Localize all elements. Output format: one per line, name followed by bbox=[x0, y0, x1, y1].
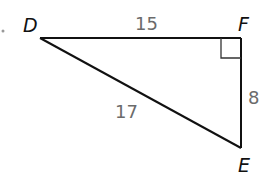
side-label-df: 15 bbox=[135, 13, 158, 34]
vertex-label-d: D bbox=[23, 14, 38, 36]
right-angle-marker bbox=[221, 38, 241, 58]
side-de bbox=[40, 38, 241, 148]
side-label-fe: 8 bbox=[248, 87, 259, 108]
vertex-label-e: E bbox=[238, 154, 250, 176]
vertex-label-f: F bbox=[238, 13, 250, 35]
stray-dot bbox=[2, 30, 5, 33]
side-label-de: 17 bbox=[115, 101, 138, 122]
triangle-def bbox=[40, 38, 241, 148]
triangle-diagram: D F E 15 8 17 bbox=[0, 0, 273, 179]
